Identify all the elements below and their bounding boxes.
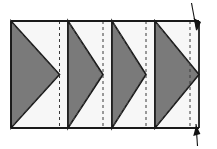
block-1	[11, 21, 68, 128]
block-4	[155, 21, 199, 128]
block-2	[68, 21, 112, 128]
block-3	[112, 21, 155, 128]
quilt-diagram	[0, 0, 217, 149]
quilt-diagram-svg	[0, 0, 217, 149]
